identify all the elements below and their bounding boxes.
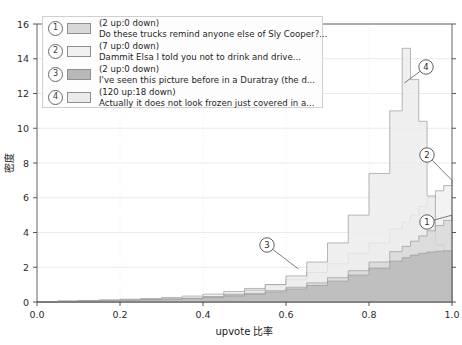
ytick-label: 14 xyxy=(17,53,29,64)
legend-swatch-1 xyxy=(67,23,91,34)
legend-item[interactable]: 1 (2 up:0 down) Do these trucks remind a… xyxy=(43,17,322,40)
y-axis-title: 密度 xyxy=(3,153,15,173)
xtick-label: 1.0 xyxy=(444,309,459,320)
xtick-label: 0.4 xyxy=(195,309,210,320)
chart-figure: 02468101214160.00.20.40.60.81.0upvote 比率… xyxy=(0,0,462,345)
legend-votes-2: (7 up:0 down) xyxy=(99,41,301,52)
annotation-label-2: 2 xyxy=(424,150,429,160)
ytick-label: 2 xyxy=(23,262,29,273)
legend-comment-2: Dammit Elsa I told you not to drink and … xyxy=(99,52,301,63)
ytick-label: 4 xyxy=(23,227,29,238)
xtick-label: 0.0 xyxy=(29,309,44,320)
ytick-label: 8 xyxy=(23,158,29,169)
legend-comment-3: I've seen this picture before in a Durat… xyxy=(99,75,315,86)
legend-text-4: (120 up:18 down) Actually it does not lo… xyxy=(99,86,314,109)
legend-marker-2: 2 xyxy=(48,44,63,59)
legend-marker-4: 4 xyxy=(48,90,63,105)
legend-item[interactable]: 4 (120 up:18 down) Actually it does not … xyxy=(43,86,322,109)
legend-swatch-2 xyxy=(67,46,91,57)
legend-comment-1: Do these trucks remind anyone else of Sl… xyxy=(99,29,327,40)
legend-votes-1: (2 up:0 down) xyxy=(99,18,327,29)
legend-marker-1: 1 xyxy=(48,21,63,36)
legend-text-1: (2 up:0 down) Do these trucks remind any… xyxy=(99,17,327,40)
legend-swatch-3 xyxy=(67,69,91,80)
legend-item[interactable]: 2 (7 up:0 down) Dammit Elsa I told you n… xyxy=(43,40,322,63)
legend-text-3: (2 up:0 down) I've seen this picture bef… xyxy=(99,63,315,86)
annotation-leader-line xyxy=(273,249,299,269)
annotation-label-1: 1 xyxy=(424,217,429,227)
legend-text-2: (7 up:0 down) Dammit Elsa I told you not… xyxy=(99,40,301,63)
legend-item[interactable]: 3 (2 up:0 down) I've seen this picture b… xyxy=(43,63,322,86)
ytick-label: 16 xyxy=(17,19,29,30)
legend: 1 (2 up:0 down) Do these trucks remind a… xyxy=(42,16,323,108)
ytick-label: 6 xyxy=(23,192,29,203)
legend-votes-3: (2 up:0 down) xyxy=(99,64,315,75)
annotation-label-3: 3 xyxy=(264,240,269,250)
legend-votes-4: (120 up:18 down) xyxy=(99,87,314,98)
ytick-label: 10 xyxy=(17,123,29,134)
legend-marker-3: 3 xyxy=(48,67,63,82)
xtick-label: 0.6 xyxy=(278,309,293,320)
ytick-label: 0 xyxy=(23,297,29,308)
legend-swatch-4 xyxy=(67,92,91,103)
legend-comment-4: Actually it does not look frozen just co… xyxy=(99,98,314,109)
ytick-label: 12 xyxy=(17,88,29,99)
annotation-label-4: 4 xyxy=(423,62,428,72)
xtick-label: 0.2 xyxy=(112,309,127,320)
x-axis-title: upvote 比率 xyxy=(216,325,274,337)
xtick-label: 0.8 xyxy=(361,309,376,320)
